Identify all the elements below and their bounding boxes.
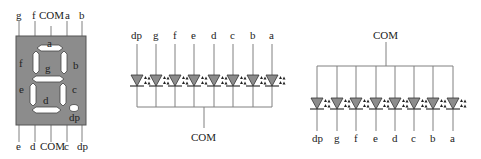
led-e <box>187 75 201 86</box>
segment-label-e: e <box>19 83 24 95</box>
emission-arrows-icon <box>383 99 390 108</box>
led-d <box>388 98 402 109</box>
ca-pin-label-f: f <box>354 132 358 144</box>
ca-pin-label-d: d <box>392 132 398 144</box>
segment-label-f: f <box>19 57 23 69</box>
cc-pin-label-c: c <box>230 29 235 41</box>
emission-arrows-icon <box>201 76 208 85</box>
led-c <box>226 75 240 86</box>
cc-pin-label-b: b <box>250 29 256 41</box>
emission-arrows-icon <box>182 76 189 85</box>
led-dp <box>310 98 324 109</box>
segment-g <box>32 76 64 82</box>
emission-arrows-icon <box>402 99 409 108</box>
led-a <box>265 75 279 86</box>
cc-pin-label-g: g <box>153 29 159 41</box>
led-dp <box>130 75 144 86</box>
emission-arrows-icon <box>221 76 228 85</box>
emission-arrows-icon <box>344 99 351 108</box>
led-e <box>369 98 383 109</box>
segment-c <box>60 83 66 106</box>
segment-label-dp: dp <box>69 111 81 123</box>
ca-pin-label-a: a <box>450 132 455 144</box>
pin-label-bottom-dp: dp <box>77 140 89 152</box>
ca-pin-label-e: e <box>373 132 378 144</box>
pin-label-top-f: f <box>32 9 36 21</box>
segment-label-d: d <box>43 94 49 106</box>
emission-arrows-icon <box>240 76 247 85</box>
cc-pin-label-a: a <box>269 29 274 41</box>
emission-arrows-icon <box>324 99 331 108</box>
common-cathode-circuit: dp g f e d c b a COM <box>130 29 286 143</box>
emission-arrows-icon <box>279 76 286 85</box>
pin-label-bottom-d: d <box>30 140 36 152</box>
ca-pin-label-g: g <box>334 132 340 144</box>
pin-label-top-g: g <box>16 9 22 21</box>
cc-pin-label-e: e <box>191 29 196 41</box>
segment-label-b: b <box>73 59 79 71</box>
led-d <box>207 75 221 86</box>
segment-d <box>32 107 61 113</box>
cc-pin-label-f: f <box>173 29 177 41</box>
seven-segment-package: a f b g e c d dp g f COM a b e d COM c d… <box>16 9 89 152</box>
ca-pin-label-dp: dp <box>312 132 324 144</box>
led-a <box>446 98 460 109</box>
pin-label-top-a: a <box>65 9 70 21</box>
emission-arrows-icon <box>163 76 170 85</box>
ca-pin-label-c: c <box>411 132 416 144</box>
emission-arrows-icon <box>421 99 428 108</box>
led-c <box>407 98 421 109</box>
seven-segment-diagram: a f b g e c d dp g f COM a b e d COM c d… <box>0 0 481 159</box>
pin-label-bottom-e: e <box>16 140 21 152</box>
led-b <box>246 75 260 86</box>
led-f <box>168 75 182 86</box>
segment-e <box>30 83 36 106</box>
emission-arrows-icon <box>363 99 370 108</box>
common-anode-circuit: COM dp g f e d c b a <box>310 29 467 144</box>
ca-pin-label-b: b <box>430 132 436 144</box>
ca-com-label: COM <box>373 29 398 41</box>
led-g <box>330 98 344 109</box>
emission-arrows-icon <box>440 99 447 108</box>
led-g <box>149 75 163 86</box>
segment-f <box>33 51 39 74</box>
led-b <box>426 98 440 109</box>
emission-arrows-icon <box>260 76 267 85</box>
segment-label-g: g <box>45 62 51 74</box>
cc-com-label: COM <box>191 131 216 143</box>
pin-label-top-com: COM <box>39 9 64 21</box>
emission-arrows-icon <box>460 99 467 108</box>
cc-pin-label-d: d <box>211 29 217 41</box>
segment-label-a: a <box>47 37 52 49</box>
pin-label-top-b: b <box>79 9 85 21</box>
segment-b <box>61 51 67 74</box>
cc-pin-label-dp: dp <box>131 29 143 41</box>
led-f <box>349 98 363 109</box>
emission-arrows-icon <box>144 76 151 85</box>
pin-label-bottom-c: c <box>64 140 69 152</box>
pin-label-bottom-com: COM <box>40 140 65 152</box>
segment-label-c: c <box>72 83 77 95</box>
